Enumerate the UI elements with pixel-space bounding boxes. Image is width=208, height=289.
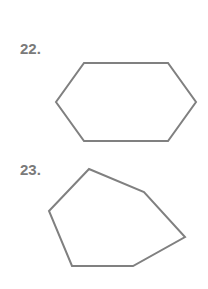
shapes-canvas [0,0,208,289]
problem-23-hexagon [49,169,185,266]
problem-22-hexagon [56,63,196,141]
